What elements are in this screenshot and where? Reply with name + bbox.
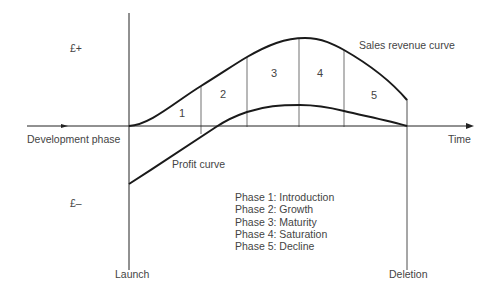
legend-item: Phase 4: Saturation bbox=[235, 228, 334, 240]
sales-revenue-curve-label: Sales revenue curve bbox=[359, 39, 455, 51]
phase-number-4: 4 bbox=[317, 67, 323, 79]
profit-curve bbox=[129, 105, 407, 184]
phase-number-1: 1 bbox=[179, 107, 185, 119]
time-arrowhead-icon bbox=[466, 123, 474, 129]
y-negative-label: £– bbox=[70, 197, 82, 209]
profit-curve-label: Profit curve bbox=[172, 158, 225, 170]
phase-number-5: 5 bbox=[371, 89, 377, 101]
legend-item: Phase 5: Decline bbox=[235, 240, 334, 252]
time-label: Time bbox=[448, 133, 471, 145]
phase-number-3: 3 bbox=[271, 67, 277, 79]
legend-item: Phase 3: Maturity bbox=[235, 216, 334, 228]
development-arrow-icon bbox=[61, 124, 68, 128]
launch-label: Launch bbox=[115, 268, 149, 280]
y-positive-label: £+ bbox=[70, 42, 82, 54]
deletion-label: Deletion bbox=[389, 268, 428, 280]
phase-number-2: 2 bbox=[220, 88, 226, 100]
phase-legend: Phase 1: Introduction Phase 2: Growth Ph… bbox=[235, 191, 334, 252]
sales-revenue-curve bbox=[129, 38, 407, 126]
development-phase-label: Development phase bbox=[27, 133, 120, 145]
legend-item: Phase 2: Growth bbox=[235, 203, 334, 215]
legend-item: Phase 1: Introduction bbox=[235, 191, 334, 203]
